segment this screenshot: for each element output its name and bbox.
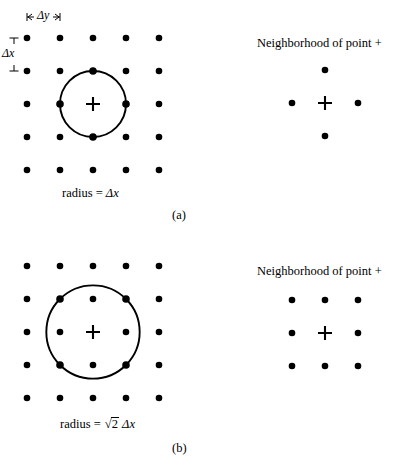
panel-b-grid-dot <box>57 329 64 336</box>
panel-b-on-circle-dot <box>122 361 130 369</box>
panel-a-grid-dot <box>90 35 97 42</box>
panel-a-label: (a) <box>172 208 186 223</box>
panel-b-grid-dot <box>156 263 163 270</box>
panel-b-grid-dot <box>24 296 31 303</box>
panel-b-on-circle-dot <box>56 295 64 303</box>
panel-a-grid-dot <box>123 134 130 141</box>
panel-a-grid-dot <box>123 167 130 174</box>
panel-b-neighborhood-dot <box>355 297 362 304</box>
panel-a-grid-dot <box>156 68 163 75</box>
panel-b-radius-value: Δx <box>122 417 135 431</box>
panel-b-grid-dot <box>24 329 31 336</box>
panel-a-center-plus-marker <box>86 97 100 111</box>
panel-a-grid-dot <box>57 35 64 42</box>
panel-b-grid-dot <box>90 263 97 270</box>
panel-a-radius-value: Δx <box>106 186 119 200</box>
panel-a-neighborhood-dot <box>322 67 329 74</box>
panel-b-on-circle-dot <box>122 295 130 303</box>
panel-a-grid-dot <box>156 167 163 174</box>
panel-b-grid-dot <box>24 395 31 402</box>
panel-b-neighborhood-center-plus-marker <box>318 326 332 340</box>
panel-b-grid-dot <box>24 263 31 270</box>
panel-a-grid-dot <box>24 134 31 141</box>
panel-b-radius-caption: radius = √2 Δx <box>60 417 135 432</box>
panel-a-grid-dot <box>24 167 31 174</box>
panel-b-neighborhood-dot <box>355 363 362 370</box>
panel-a-grid-dot <box>24 68 31 75</box>
panel-b-grid-dot <box>123 329 130 336</box>
sqrt-icon: √2 <box>104 417 119 432</box>
delta-y-dimension-label: Δy <box>37 8 49 23</box>
panel-b-neighborhood-heading: Neighborhood of point + <box>257 264 382 279</box>
panel-b-label: (b) <box>172 441 187 456</box>
panel-b-center-plus-marker <box>86 325 100 339</box>
figure-canvas <box>0 0 414 475</box>
panel-a-grid-dot <box>156 35 163 42</box>
panel-a-grid-dot <box>57 68 64 75</box>
panel-a-on-circle-dot <box>122 100 130 108</box>
panel-b-grid-dot <box>123 263 130 270</box>
panel-a-on-circle-dot <box>89 133 97 141</box>
panel-b-grid-dot <box>156 329 163 336</box>
panel-a-grid-dot <box>123 35 130 42</box>
panel-b-neighborhood-dot <box>322 363 329 370</box>
panel-b-neighborhood-dot <box>289 363 296 370</box>
panel-a-on-circle-dot <box>89 67 97 75</box>
panel-b-radius-prefix: radius = <box>60 417 104 431</box>
delta-x-dimension-label: Δx <box>2 46 14 61</box>
panel-b-grid-dot <box>57 395 64 402</box>
panel-b-grid-dot <box>123 395 130 402</box>
panel-a-neighborhood-center-plus-marker <box>318 96 332 110</box>
panel-a-grid-dot <box>156 101 163 108</box>
panel-b-radius-radicand: 2 <box>111 417 119 431</box>
panel-a-on-circle-dot <box>56 100 64 108</box>
panel-b-grid-dot <box>90 296 97 303</box>
panel-a-neighborhood-dot <box>322 133 329 140</box>
figure-root: radius = Δx (a) Neighborhood of point + … <box>0 0 414 475</box>
panel-b-grid-dot <box>156 395 163 402</box>
panel-a-grid-dot <box>156 134 163 141</box>
panel-a-grid-dot <box>57 134 64 141</box>
panel-b-grid-dot <box>90 395 97 402</box>
panel-a-radius-prefix: radius = <box>62 186 106 200</box>
panel-a-grid-dot <box>57 167 64 174</box>
panel-b-neighborhood-dot <box>289 297 296 304</box>
panel-b-grid-dot <box>156 296 163 303</box>
panel-b-grid-dot <box>90 362 97 369</box>
panel-a-grid-dot <box>24 101 31 108</box>
panel-a-grid-dot <box>24 35 31 42</box>
panel-b-grid-dot <box>24 362 31 369</box>
panel-b-neighborhood-dot <box>355 330 362 337</box>
panel-a-grid-dot <box>123 68 130 75</box>
panel-b-neighborhood-dot <box>322 297 329 304</box>
panel-a-neighborhood-dot <box>289 100 296 107</box>
panel-b-neighborhood-dot <box>289 330 296 337</box>
panel-b-grid-dot <box>57 263 64 270</box>
panel-a-neighborhood-dot <box>355 100 362 107</box>
panel-a-grid-dot <box>90 167 97 174</box>
panel-a-neighborhood-heading: Neighborhood of point + <box>257 36 382 51</box>
panel-b-grid-dot <box>156 362 163 369</box>
panel-b-on-circle-dot <box>56 361 64 369</box>
panel-a-radius-caption: radius = Δx <box>62 186 119 201</box>
